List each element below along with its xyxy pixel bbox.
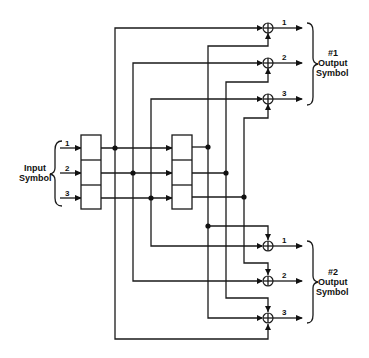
input-bit-2: 2: [65, 164, 70, 173]
xor-adder-bottom-2: [263, 276, 273, 286]
output2-brace: [307, 241, 318, 323]
encoder-diagram: Input Symbol 1 2 3 1 2 3 #1 Output Symbo…: [0, 0, 369, 358]
tap-f: [244, 104, 268, 197]
tap-d-branch: [208, 226, 268, 240]
xor-adder-top-1: [263, 23, 273, 33]
output1-bit-1: 1: [282, 18, 287, 27]
tap-c-down: [151, 198, 262, 246]
output1-label-line1: #1: [328, 48, 338, 58]
output1-bit-2: 2: [282, 53, 287, 62]
output2-bit-1: 1: [282, 236, 287, 245]
tap-d: [208, 33, 268, 147]
tap-b-down: [133, 173, 262, 281]
output2-label-line1: #2: [328, 267, 338, 277]
output2-label-line2: Output: [318, 277, 348, 287]
tap-e: [226, 68, 268, 173]
input-label-line1: Input: [24, 163, 46, 173]
output2-bit-2: 2: [282, 271, 287, 280]
output1-bit-3: 3: [282, 89, 287, 98]
register-1: [81, 135, 101, 209]
input-bit-3: 3: [65, 189, 70, 198]
xor-adder-bottom-1: [263, 241, 273, 251]
xor-adder-top-2: [263, 58, 273, 68]
output2-bit-3: 3: [282, 308, 287, 317]
output1-label-line3: Symbol: [316, 68, 349, 78]
tap-e-down: [226, 173, 268, 312]
xor-adder-bottom-3: [263, 313, 273, 323]
register-2: [172, 135, 192, 209]
output2-label-line3: Symbol: [316, 287, 349, 297]
input-bit-1: 1: [65, 139, 70, 148]
input-label-line2: Symbol: [19, 173, 52, 183]
output1-label-line2: Output: [318, 58, 348, 68]
xor-adder-top-3: [263, 94, 273, 104]
tap-b: [133, 63, 262, 173]
tap-f-down: [244, 197, 268, 275]
output1-brace: [307, 23, 318, 105]
